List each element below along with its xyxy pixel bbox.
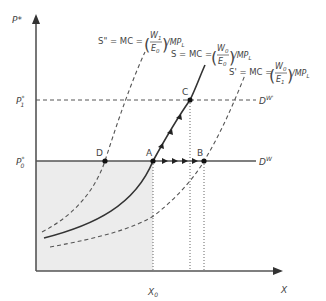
point-label-a: A [146,148,153,158]
point-a [150,158,155,163]
svg-text:E0: E0 [218,57,227,67]
dw-arrow-icon [162,158,168,164]
svg-text:/MPL: /MPL [166,38,185,48]
x-axis-arrow-icon [273,267,283,275]
dw-arrow-icon [172,158,178,164]
p1-label: P*1 [16,94,24,108]
p0-label: P*0 [16,155,24,169]
point-label-d: D [96,148,103,158]
dw-prime-label: DW' [259,94,274,106]
dw-label: DW [259,155,273,167]
svg-text:W1: W1 [150,31,161,41]
svg-text:S' = MC =: S' = MC = [229,67,272,77]
svg-text:S = MC =: S = MC = [171,49,212,59]
svg-text:W0: W0 [217,44,229,54]
point-label-c: C [182,87,188,97]
svg-text:/MPL: /MPL [233,51,252,61]
svg-text:S" = MC =: S" = MC = [98,36,143,46]
dw-arrow-icon [182,158,188,164]
svg-text:E1: E1 [276,75,285,85]
dw-arrow-icon [192,158,198,164]
svg-text:W0: W0 [275,62,287,72]
shaded-area [36,161,153,271]
point-c [187,97,192,102]
y-axis-label: P* [12,15,22,25]
x-axis-label: X0 [147,287,158,298]
supply-demand-diagram: D A B C P* X0 X P*1 P*0 DW' DW S" = MC =… [0,0,326,301]
point-d [102,158,107,163]
y-axis-arrow-icon [32,14,40,24]
point-label-b: B [197,148,203,158]
x-axis-title: X [280,285,288,295]
s-prime-formula: S' = MC = ( W0 E1 ) /MPL [229,62,310,85]
svg-text:E0: E0 [151,44,160,54]
svg-text:/MPL: /MPL [291,69,310,79]
point-b [201,158,206,163]
